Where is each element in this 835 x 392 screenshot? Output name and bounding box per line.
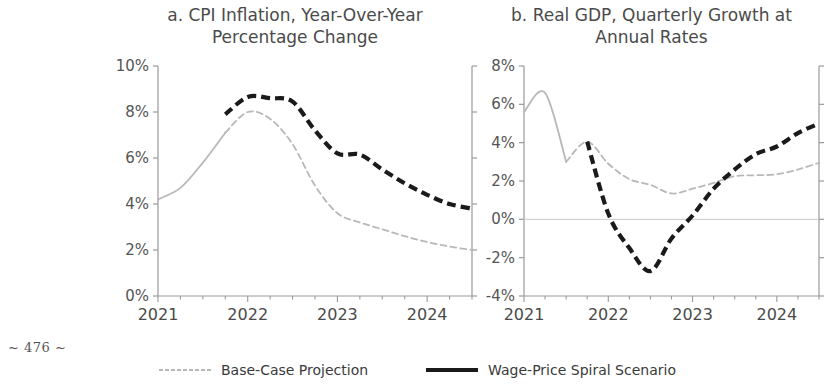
y-tick-label-0: 0%	[125, 287, 149, 305]
y-tick-label-0: -4%	[486, 287, 515, 305]
y-tick-label-1: 2%	[125, 241, 149, 259]
legend-label-wage-price: Wage-Price Spiral Scenario	[488, 362, 676, 378]
legend-line-wage-price-icon	[426, 365, 478, 375]
series-0-history-line	[524, 91, 566, 162]
series-1-scenario-line	[587, 124, 819, 272]
x-tick-label-1: 2022	[588, 305, 629, 324]
panel-a-title-line2: Percentage Change	[100, 26, 490, 48]
legend-swatch-base-case	[159, 362, 211, 378]
x-tick-label-3: 2024	[407, 305, 448, 324]
y-tick-label-5: 10%	[116, 57, 149, 75]
y-tick-label-3: 2%	[491, 172, 515, 190]
series-0-projection-line	[566, 142, 819, 194]
x-tick-label-2: 2023	[672, 305, 713, 324]
legend-swatch-wage-price	[426, 362, 478, 378]
x-tick-label-0: 2021	[504, 305, 545, 324]
legend-line-base-case-icon	[159, 365, 211, 375]
chart-panel-cpi-inflation: a. CPI Inflation, Year-Over-Year Percent…	[100, 0, 490, 348]
panel-b-plot-area: -4%-2%0%2%4%6%8%2021202220232024	[468, 48, 835, 348]
chart-legend: Base-Case Projection Wage-Price Spiral S…	[0, 362, 835, 378]
panel-b-title-line1: b. Real GDP, Quarterly Growth at	[468, 4, 835, 26]
panel-b-title-line2: Annual Rates	[468, 26, 835, 48]
legend-item-wage-price: Wage-Price Spiral Scenario	[426, 362, 676, 378]
legend-label-base-case: Base-Case Projection	[221, 362, 368, 378]
panel-b-title: b. Real GDP, Quarterly Growth at Annual …	[468, 0, 835, 48]
y-tick-label-4: 4%	[491, 134, 515, 152]
series-0-history-line	[158, 133, 225, 200]
page-number-marker: ~ 476 ~	[8, 340, 66, 355]
y-tick-label-2: 0%	[491, 210, 515, 228]
legend-item-base-case: Base-Case Projection	[159, 362, 368, 378]
y-tick-label-6: 8%	[491, 57, 515, 75]
series-1-scenario-line	[225, 96, 472, 209]
series-0-projection-line	[225, 111, 472, 250]
y-tick-label-1: -2%	[486, 249, 515, 267]
chart-panel-real-gdp: b. Real GDP, Quarterly Growth at Annual …	[468, 0, 835, 348]
panel-a-plot-area: 0%2%4%6%8%10%2021202220232024	[100, 48, 490, 348]
y-tick-label-2: 4%	[125, 195, 149, 213]
x-tick-label-2: 2023	[317, 305, 358, 324]
y-tick-label-3: 6%	[125, 149, 149, 167]
panel-a-title-line1: a. CPI Inflation, Year-Over-Year	[100, 4, 490, 26]
panel-b-svg: -4%-2%0%2%4%6%8%2021202220232024	[468, 48, 835, 348]
x-tick-label-1: 2022	[227, 305, 268, 324]
y-tick-label-5: 6%	[491, 95, 515, 113]
panel-a-title: a. CPI Inflation, Year-Over-Year Percent…	[100, 0, 490, 48]
panel-a-svg: 0%2%4%6%8%10%2021202220232024	[100, 48, 490, 348]
x-tick-label-0: 2021	[138, 305, 179, 324]
x-tick-label-3: 2024	[756, 305, 797, 324]
y-tick-label-4: 8%	[125, 103, 149, 121]
